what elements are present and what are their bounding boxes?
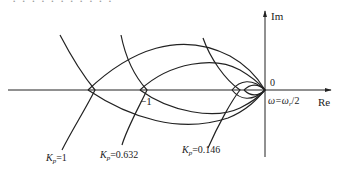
kp-0146-label: Kp=0.146	[181, 144, 220, 157]
re-label: Re	[318, 96, 330, 108]
nyquist-diagram: Im Re 0 −1 ω=ωr/2 Kp=1 Kp=0.632 Kp=0.146	[0, 0, 341, 170]
kp-1-curve	[60, 35, 95, 150]
outer-upper-arc	[88, 44, 265, 90]
middle-lower-arc	[140, 90, 265, 114]
minus-one-label: −1	[140, 95, 152, 107]
kp-0632-label: Kp=0.632	[99, 149, 138, 162]
kp-1-label: Kp=1	[45, 152, 67, 165]
omega-label: ω=ωr/2	[268, 95, 299, 108]
im-label: Im	[271, 10, 284, 22]
origin-label: 0	[270, 77, 275, 88]
